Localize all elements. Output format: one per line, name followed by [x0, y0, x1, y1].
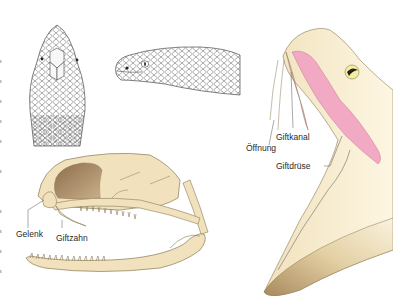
label-gelenk: Gelenk	[16, 230, 43, 239]
label-giftzahn: Giftzahn	[56, 234, 88, 243]
skull-side-view	[26, 153, 208, 271]
eye-icon	[41, 58, 44, 61]
left-margin-ticks	[0, 60, 2, 273]
label-giftdruese: Giftdrüse	[276, 162, 311, 171]
eye-icon	[144, 62, 146, 66]
snake-anatomy-figure: Giftkanal Öffnung Giftdrüse Gelenk Giftz…	[0, 0, 393, 304]
eye-icon	[76, 59, 79, 62]
head-side-view	[116, 47, 240, 95]
label-giftkanal: Giftkanal	[276, 133, 310, 142]
label-oeffnung: Öffnung	[246, 144, 276, 153]
head-top-view	[30, 25, 86, 146]
